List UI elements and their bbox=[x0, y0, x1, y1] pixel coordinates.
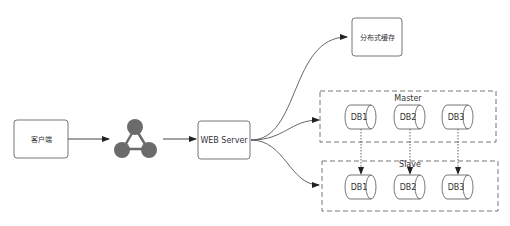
svg-text:DB2: DB2 bbox=[400, 113, 417, 122]
svg-text:DB3: DB3 bbox=[448, 183, 465, 192]
slave-db1[interactable]: DB1 bbox=[345, 175, 376, 199]
cache-label: 分布式缓存 bbox=[360, 33, 395, 42]
svg-text:DB1: DB1 bbox=[351, 183, 368, 192]
edge-web-slave bbox=[251, 140, 319, 185]
edge-web-master bbox=[251, 120, 319, 140]
slave-db2[interactable]: DB2 bbox=[394, 175, 425, 199]
master-db1[interactable]: DB1 bbox=[345, 105, 376, 129]
edge-web-cache bbox=[251, 37, 347, 140]
master-db3[interactable]: DB3 bbox=[442, 105, 473, 129]
master-label: Master bbox=[394, 94, 422, 103]
load-balancer-icon[interactable] bbox=[114, 119, 157, 158]
web-server-label: WEB Server bbox=[200, 136, 248, 145]
svg-text:DB1: DB1 bbox=[351, 113, 368, 122]
slave-db3[interactable]: DB3 bbox=[442, 175, 473, 199]
master-db2[interactable]: DB2 bbox=[394, 105, 425, 129]
client-label: 客户端 bbox=[31, 135, 52, 144]
client-node[interactable]: 客户端 bbox=[14, 120, 68, 158]
slave-label: Slave bbox=[399, 160, 421, 169]
svg-text:DB2: DB2 bbox=[400, 183, 417, 192]
web-server-node[interactable]: WEB Server bbox=[198, 121, 250, 159]
cache-node[interactable]: 分布式缓存 bbox=[352, 18, 402, 56]
svg-text:DB3: DB3 bbox=[448, 113, 465, 122]
